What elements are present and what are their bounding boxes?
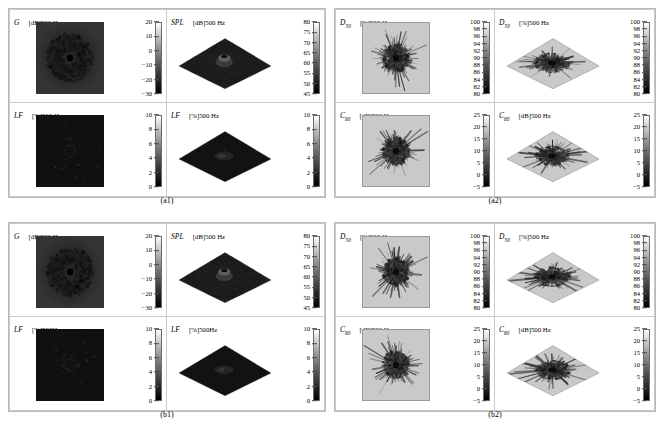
colorbar-tick-label: 5 xyxy=(637,160,640,167)
colorbar-tick-label: 20 xyxy=(633,338,640,345)
colorbar-tick-label: 6 xyxy=(307,141,310,148)
surface-3d xyxy=(501,331,605,399)
colorbar: 2520151050−5 xyxy=(606,115,650,187)
colorbar: 1086420 xyxy=(118,329,162,401)
colorbar-tick-label: 45 xyxy=(303,91,310,98)
panel-symbol: LF xyxy=(14,325,23,334)
colorbar-gradient xyxy=(155,115,162,187)
colorbar: 10098969492908886848280 xyxy=(446,236,490,308)
colorbar-tick-label: −5 xyxy=(473,398,480,405)
colorbar-tick-label: −30 xyxy=(142,305,152,312)
panel-a1-g-2d: G[dB]500 Hz 20100−10−20−30 xyxy=(9,9,167,103)
colorbar-tick-label: 25 xyxy=(633,112,640,119)
panel-symbol: G xyxy=(14,18,20,27)
colorbar-tick-label: 0 xyxy=(149,48,152,55)
subfigure-caption-a1: (a1) xyxy=(8,196,326,205)
colorbar-ticks: 1086420 xyxy=(278,115,312,187)
surface-3d xyxy=(173,331,277,399)
colorbar: 20100−10−20−30 xyxy=(118,22,162,94)
colorbar-ticks: 8075706560555045 xyxy=(278,236,312,308)
colorbar-tick-label: 8 xyxy=(149,126,152,133)
heatmap-2d xyxy=(362,329,430,401)
panel-b1-g-2d: G[dB]500 Hz 20100−10−20−30 xyxy=(9,223,167,317)
colorbar-tick-label: 20 xyxy=(145,19,152,26)
colorbar-tick-label: 6 xyxy=(149,141,152,148)
panel-symbol-subscript: 50 xyxy=(346,23,351,29)
colorbar: 1086420 xyxy=(118,115,162,187)
colorbar-tick-label: 5 xyxy=(637,374,640,381)
colorbar-tick-label: −5 xyxy=(473,184,480,191)
colorbar-tick-label: −5 xyxy=(633,184,640,191)
colorbar: 20100−10−20−30 xyxy=(118,236,162,308)
panel-b2-d50-3d: D50[%]500 Hz10098969492908886848280 xyxy=(495,223,655,317)
colorbar-tick-label: 70 xyxy=(303,39,310,46)
panel-grid-a1: G[dB]500 Hz 20100−10−20−30SPL[dB]500 Hz8… xyxy=(8,8,326,198)
colorbar-tick-label: 0 xyxy=(477,172,480,179)
colorbar-tick-label: 15 xyxy=(633,350,640,357)
colorbar: 10098969492908886848280 xyxy=(606,236,650,308)
colorbar-ticks: 10098969492908886848280 xyxy=(448,22,482,94)
surface-3d xyxy=(173,24,277,92)
panel-b1-spl-3d: SPL[dB]500 Hz8075706560555045 xyxy=(167,223,325,317)
colorbar-tick-label: 20 xyxy=(145,233,152,240)
panel-grid-b1: G[dB]500 Hz 20100−10−20−30SPL[dB]500 Hz8… xyxy=(8,222,326,412)
colorbar-ticks: 10098969492908886848280 xyxy=(608,22,642,94)
colorbar-tick-label: 10 xyxy=(303,326,310,333)
heatmap-2d xyxy=(36,329,104,401)
colorbar-ticks: 2520151050−5 xyxy=(608,115,642,187)
subfigure-caption-a2: (a2) xyxy=(334,196,656,205)
panel-symbol: C80 xyxy=(340,325,351,334)
panel-symbol: D50 xyxy=(340,232,351,241)
panel-b2-c80-2d: C80[dB]500 Hz2520151050−5 xyxy=(335,317,495,411)
colorbar: 2520151050−5 xyxy=(606,329,650,401)
panel-a1-spl-3d: SPL[dB]500 Hz8075706560555045 xyxy=(167,9,325,103)
panel-a2-d50-2d: D50[%]500 Hz10098969492908886848280 xyxy=(335,9,495,103)
colorbar-tick-label: −5 xyxy=(633,398,640,405)
subfigure-caption-b1: (b1) xyxy=(8,410,326,419)
colorbar-tick-label: 6 xyxy=(149,355,152,362)
colorbar-tick-label: 10 xyxy=(473,148,480,155)
colorbar-tick-label: 80 xyxy=(633,305,640,312)
colorbar-tick-label: 4 xyxy=(307,369,310,376)
heatmap-2d xyxy=(36,22,104,94)
colorbar-ticks: 2520151050−5 xyxy=(608,329,642,401)
colorbar: 1086420 xyxy=(276,115,320,187)
colorbar-tick-label: −30 xyxy=(142,91,152,98)
colorbar-tick-label: 25 xyxy=(633,326,640,333)
surface-3d xyxy=(173,117,277,185)
colorbar-tick-label: 10 xyxy=(145,112,152,119)
panel-a2-c80-2d: C80[dB]500 Hz2520151050−5 xyxy=(335,103,495,197)
colorbar-tick-label: 10 xyxy=(633,148,640,155)
colorbar-tick-label: 2 xyxy=(307,169,310,176)
colorbar-tick-label: −10 xyxy=(142,276,152,283)
colorbar-ticks: 2520151050−5 xyxy=(448,115,482,187)
figure-group-b2: D50[%]500 Hz10098969492908886848280D50[%… xyxy=(334,222,656,412)
colorbar-ticks: 10098969492908886848280 xyxy=(448,236,482,308)
colorbar-ticks: 2520151050−5 xyxy=(448,329,482,401)
colorbar-tick-label: 5 xyxy=(477,374,480,381)
heatmap-2d xyxy=(36,115,104,187)
colorbar-tick-label: 10 xyxy=(633,362,640,369)
heatmap-2d xyxy=(362,22,430,94)
colorbar-tick-label: 70 xyxy=(303,253,310,260)
colorbar-tick-label: 65 xyxy=(303,264,310,271)
colorbar-tick-label: 15 xyxy=(633,136,640,143)
colorbar-ticks: 1086420 xyxy=(120,115,154,187)
colorbar-tick-label: 0 xyxy=(307,398,310,405)
panel-a1-lf-2d: LF[%]500 Hz1086420 xyxy=(9,103,167,197)
heatmap-2d xyxy=(36,236,104,308)
panel-b1-lf-2d: LF[%]500Hz1086420 xyxy=(9,317,167,411)
colorbar: 2520151050−5 xyxy=(446,329,490,401)
colorbar-tick-label: −20 xyxy=(142,290,152,297)
panel-symbol: G xyxy=(14,232,20,241)
colorbar-tick-label: 8 xyxy=(307,126,310,133)
panel-symbol-subscript: 80 xyxy=(345,330,350,336)
colorbar-tick-label: 80 xyxy=(473,305,480,312)
colorbar-ticks: 8075706560555045 xyxy=(278,22,312,94)
colorbar-tick-label: 0 xyxy=(307,184,310,191)
colorbar-tick-label: 20 xyxy=(473,338,480,345)
colorbar-tick-label: 20 xyxy=(473,124,480,131)
panel-a2-c80-3d: C80[dB]500 Hz2520151050−5 xyxy=(495,103,655,197)
colorbar-tick-label: 0 xyxy=(637,172,640,179)
colorbar-ticks: 1086420 xyxy=(120,329,154,401)
